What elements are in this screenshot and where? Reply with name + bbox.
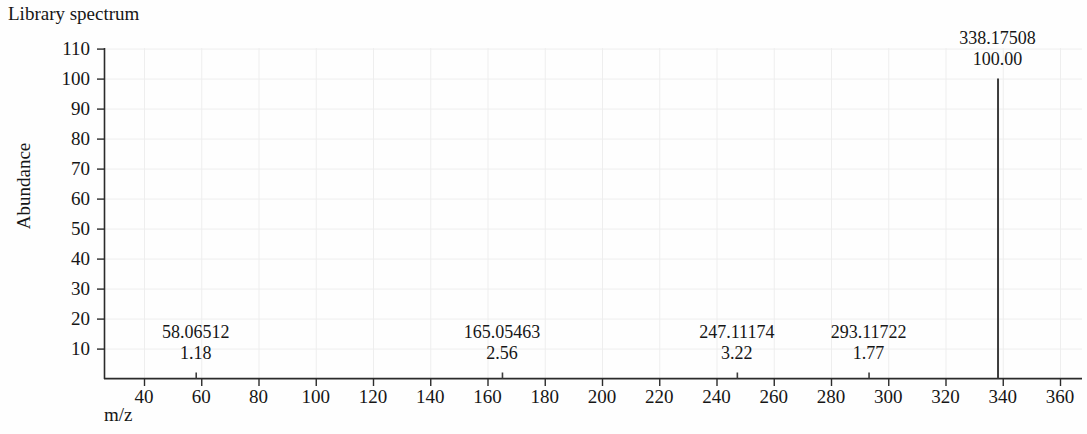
x-tick-label: 100 bbox=[286, 387, 346, 406]
x-tick-label: 240 bbox=[687, 387, 747, 406]
y-tick-label: 110 bbox=[44, 39, 90, 58]
peak-abundance-value: 100.00 bbox=[918, 49, 1078, 70]
x-tick-label: 140 bbox=[400, 387, 460, 406]
y-tick-label: 20 bbox=[44, 309, 90, 328]
y-tick-label: 100 bbox=[44, 69, 90, 88]
peak-annotation: 338.17508100.00 bbox=[918, 28, 1078, 70]
peak-abundance-value: 1.18 bbox=[116, 343, 276, 364]
x-tick-label: 120 bbox=[343, 387, 403, 406]
x-tick-label: 80 bbox=[229, 387, 289, 406]
peak-annotation: 293.117221.77 bbox=[789, 322, 949, 364]
peak-annotation: 165.054632.56 bbox=[422, 322, 582, 364]
x-tick-label: 280 bbox=[801, 387, 861, 406]
x-tick-label: 320 bbox=[916, 387, 976, 406]
x-tick-label: 340 bbox=[973, 387, 1033, 406]
x-tick-label: 260 bbox=[744, 387, 804, 406]
x-tick-label: 300 bbox=[858, 387, 918, 406]
x-axis-ticks bbox=[145, 379, 1061, 386]
x-tick-label: 220 bbox=[629, 387, 689, 406]
x-tick-label: 180 bbox=[515, 387, 575, 406]
peak-abundance-value: 2.56 bbox=[422, 343, 582, 364]
peak-annotation: 58.065121.18 bbox=[116, 322, 276, 364]
y-axis-ticks bbox=[97, 49, 105, 349]
peak-mz-value: 293.11722 bbox=[789, 322, 949, 343]
y-tick-label: 10 bbox=[44, 339, 90, 358]
x-tick-label: 360 bbox=[1030, 387, 1087, 406]
y-tick-label: 60 bbox=[44, 189, 90, 208]
y-tick-label: 80 bbox=[44, 129, 90, 148]
x-tick-label: 60 bbox=[171, 387, 231, 406]
mass-spectrum-figure: Library spectrum Abundance m/z 110100908… bbox=[0, 0, 1087, 434]
x-tick-label: 160 bbox=[458, 387, 518, 406]
y-tick-label: 70 bbox=[44, 159, 90, 178]
peak-mz-value: 165.05463 bbox=[422, 322, 582, 343]
peak-mz-value: 58.06512 bbox=[116, 322, 276, 343]
y-tick-label: 30 bbox=[44, 279, 90, 298]
y-tick-label: 90 bbox=[44, 99, 90, 118]
y-tick-label: 50 bbox=[44, 219, 90, 238]
y-tick-label: 40 bbox=[44, 249, 90, 268]
peak-mz-value: 338.17508 bbox=[918, 28, 1078, 49]
peak-abundance-value: 1.77 bbox=[789, 343, 949, 364]
x-tick-label: 200 bbox=[572, 387, 632, 406]
x-tick-label: 40 bbox=[114, 387, 174, 406]
